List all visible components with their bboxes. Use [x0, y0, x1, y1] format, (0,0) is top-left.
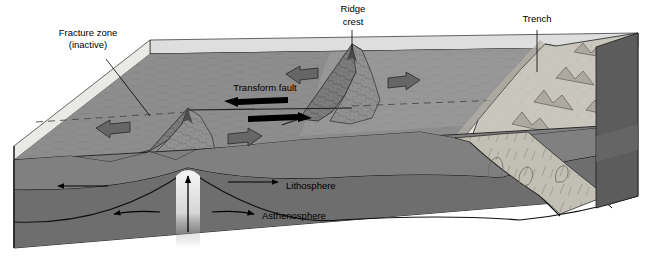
asthenosphere-label: Asthenosphere	[262, 210, 326, 221]
fracture-zone-label-line2: (inactive)	[69, 39, 108, 50]
diagram-canvas: Fracture zone (inactive) Ridge crest Tre…	[0, 0, 651, 256]
trench-label: Trench	[522, 13, 551, 24]
ridge-crest-label-line2: crest	[343, 16, 364, 27]
ridge-crest-label-line1: Ridge	[341, 3, 366, 14]
transform-fault-label: Transform fault	[233, 82, 297, 93]
block-right-side-face	[596, 33, 638, 208]
fracture-zone-label-line1: Fracture zone	[59, 27, 118, 38]
lithosphere-label: Lithosphere	[286, 180, 336, 191]
block-diagram-svg: Fracture zone (inactive) Ridge crest Tre…	[0, 0, 651, 256]
